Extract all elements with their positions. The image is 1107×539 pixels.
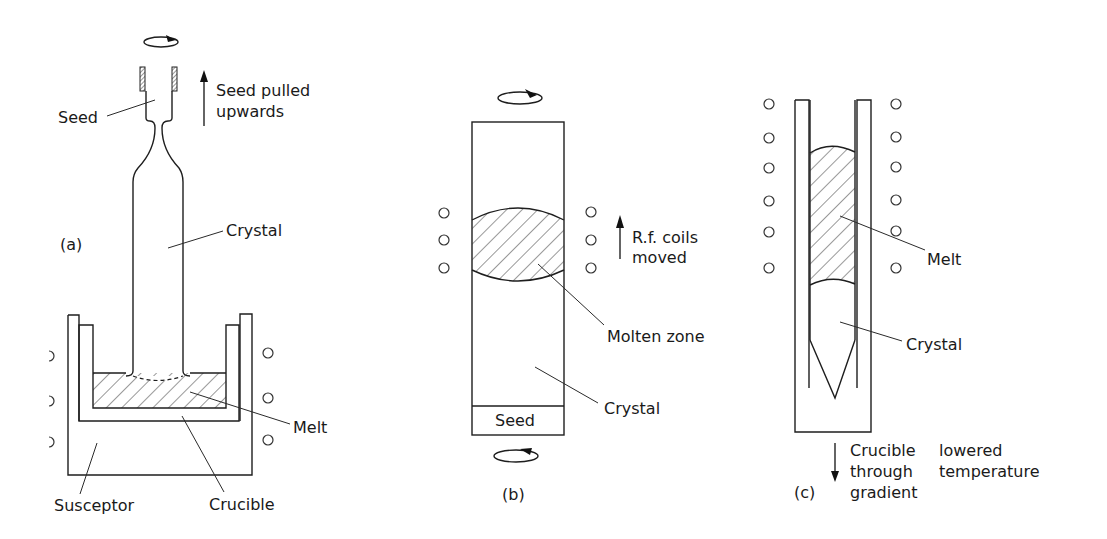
label-melt: Melt — [293, 418, 327, 437]
label-motion-line1a: Crucible — [850, 441, 916, 460]
up-arrow-icon — [200, 70, 208, 126]
rotation-arrow-icon — [498, 89, 542, 104]
label-crystal: Crystal — [604, 399, 660, 418]
panel-b-float-zone: Seed R.f. coils moved Molten zone Crysta… — [439, 89, 705, 504]
melt-region — [810, 138, 855, 288]
crystal-outline — [126, 91, 190, 376]
crystal-growth-methods-figure: Seed pulled upwards Seed Crystal (a) Mel… — [0, 0, 1107, 539]
rotation-arrow-icon — [494, 448, 538, 462]
label-susceptor: Susceptor — [54, 496, 134, 515]
rf-coils-left — [49, 351, 54, 447]
rf-coils-right — [586, 207, 596, 273]
caption-b: (b) — [502, 485, 525, 504]
seed-holder-left — [140, 67, 145, 91]
label-seed: Seed — [58, 108, 98, 127]
label-crystal: Crystal — [226, 221, 282, 240]
melt-region — [93, 373, 226, 408]
label-motion-line3: gradient — [850, 483, 917, 502]
label-rf-coils-moved-line2: moved — [632, 248, 687, 267]
label-molten-zone: Molten zone — [607, 327, 705, 346]
label-melt: Melt — [927, 250, 961, 269]
rf-coils-right — [263, 348, 273, 445]
label-motion-line2a: through — [850, 462, 913, 481]
caption-c: (c) — [794, 483, 815, 502]
seed-holder-right — [172, 67, 177, 91]
molten-zone — [472, 200, 564, 290]
label-seed-pulled-line1: Seed pulled — [216, 81, 310, 100]
up-arrow-icon — [616, 215, 624, 259]
down-arrow-icon — [831, 443, 839, 482]
rotation-arrow-icon — [144, 35, 178, 47]
rf-coils-left — [439, 208, 449, 273]
label-seed: Seed — [495, 411, 535, 430]
label-motion-line2b: temperature — [939, 462, 1040, 481]
label-seed-pulled-line2: upwards — [216, 102, 284, 121]
label-crucible: Crucible — [209, 495, 275, 514]
rf-coils-left — [764, 99, 774, 273]
label-crystal: Crystal — [906, 335, 962, 354]
crystal-cone — [810, 340, 855, 398]
label-motion-line1b: lowered — [939, 441, 1002, 460]
panel-c-bridgman: Melt Crystal Crucible lowered through te… — [764, 99, 1040, 502]
panel-a-czochralski: Seed pulled upwards Seed Crystal (a) Mel… — [49, 35, 327, 515]
caption-a: (a) — [60, 235, 82, 254]
rf-coils-right — [891, 99, 901, 273]
label-rf-coils-moved-line1: R.f. coils — [632, 228, 698, 247]
